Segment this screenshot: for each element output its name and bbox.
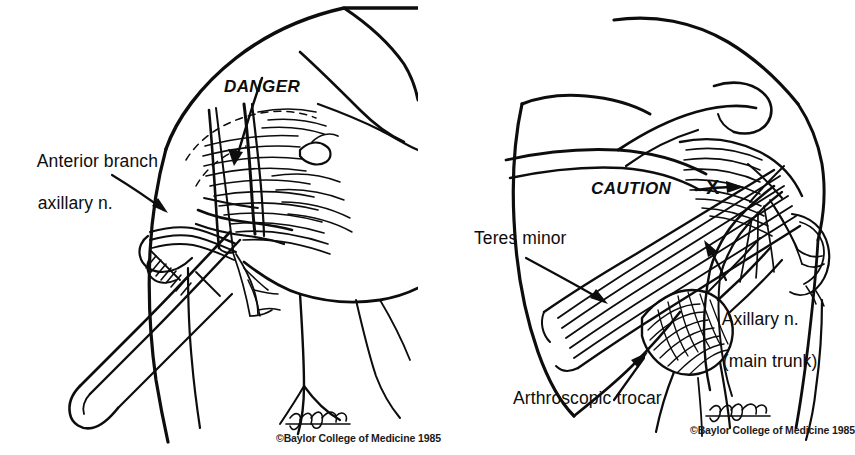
danger-callout: DANGER bbox=[224, 76, 300, 97]
anterior-branch-label: Anterior branch axillary n. bbox=[8, 130, 158, 235]
artist-signature bbox=[706, 404, 770, 421]
caution-callout: CAUTION bbox=[591, 178, 671, 199]
arthroscopic-trocar-label: Arthroscopic trocar bbox=[513, 388, 662, 409]
teres-minor-label: Teres minor bbox=[474, 228, 567, 249]
anterior-branch-label-line1: Anterior branch bbox=[37, 151, 158, 171]
illustration-panel-left: Anterior branch axillary n. DANGER ©Bayl… bbox=[0, 0, 418, 455]
anterior-branch-label-line2: axillary n. bbox=[38, 193, 113, 213]
axillary-nerve-label-line2: (main trunk) bbox=[723, 351, 818, 371]
copyright-left: ©Baylor College of Medicine 1985 bbox=[276, 432, 441, 444]
axillary-nerve-label-line1: Axillary n. bbox=[722, 309, 799, 329]
axillary-nerve-label: Axillary n. (main trunk) bbox=[693, 288, 817, 393]
copyright-right: ©Baylor College of Medicine 1985 bbox=[690, 424, 855, 436]
illustration-panel-right: CAUTION X Teres minor Axillary n. (main … bbox=[418, 0, 836, 455]
x-marker: X bbox=[706, 177, 719, 198]
